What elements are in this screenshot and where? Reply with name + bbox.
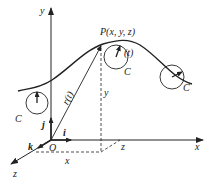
unit-i-label: i bbox=[63, 127, 66, 138]
curve-diagram: y x z O P(x, y, z) r(t) (t) C C C i j k … bbox=[0, 0, 207, 181]
tangent-circle-left bbox=[26, 92, 48, 114]
curve-label-mid: C bbox=[124, 66, 131, 77]
projection-z-label: z bbox=[120, 141, 125, 152]
curve-label-left: C bbox=[15, 113, 22, 124]
position-vector-label: r(t) bbox=[60, 89, 77, 107]
height-y-label: y bbox=[103, 87, 109, 98]
tangent-circle-right bbox=[160, 65, 184, 89]
point-p-label: P(x, y, z) bbox=[99, 26, 136, 38]
x-axis-label: x bbox=[194, 141, 200, 152]
projection-x-label: x bbox=[64, 155, 70, 166]
origin-label: O bbox=[49, 142, 56, 153]
unit-k-label: k bbox=[28, 141, 33, 152]
unit-j-label: j bbox=[40, 119, 45, 130]
position-vector-r bbox=[51, 46, 101, 140]
z-axis-label: z bbox=[12, 168, 17, 179]
projection-z bbox=[101, 140, 120, 152]
curve-label-right: C bbox=[183, 82, 190, 93]
curve-c bbox=[18, 40, 192, 91]
tangent-param-label: (t) bbox=[124, 47, 134, 59]
y-axis-label: y bbox=[39, 5, 45, 16]
